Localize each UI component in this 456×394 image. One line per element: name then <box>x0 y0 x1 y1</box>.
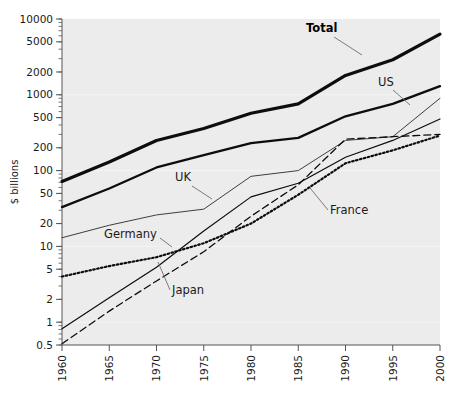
chart-figure: 0.512510205010020050010002000500010000 1… <box>0 0 456 394</box>
y-tick-label: 100 <box>33 164 53 176</box>
y-axis-tick-labels: 0.512510205010020050010002000500010000 <box>20 13 53 351</box>
y-axis-title: $ billions <box>9 160 20 205</box>
y-tick-label: 1000 <box>26 88 53 100</box>
y-tick-label: 50 <box>40 187 53 199</box>
y-tick-label: 10 <box>40 240 53 252</box>
y-tick-label: 10000 <box>20 13 53 25</box>
x-tick-label: 1990 <box>339 355 351 382</box>
x-axis-ticks <box>62 345 440 351</box>
series-label-uk: UK <box>175 170 191 184</box>
y-tick-label: 5000 <box>26 35 53 47</box>
y-tick-label: 500 <box>33 111 53 123</box>
series-label-france: France <box>330 203 368 217</box>
x-tick-label: 1985 <box>292 355 304 382</box>
x-axis-tick-labels: 196019651970197519801985199019952000 <box>56 355 446 382</box>
y-tick-label: 2 <box>46 293 53 305</box>
y-tick-label: 200 <box>33 141 53 153</box>
y-tick-label: 2000 <box>26 66 53 78</box>
y-tick-label: 20 <box>40 217 53 229</box>
series-label-us: US <box>378 75 394 89</box>
series-label-japan: Japan <box>171 283 204 297</box>
x-tick-label: 1995 <box>387 355 399 382</box>
series-label-total: Total <box>306 21 337 35</box>
x-tick-label: 1980 <box>245 355 257 382</box>
series-label-germany: Germany <box>104 227 157 241</box>
x-tick-label: 1970 <box>150 355 162 382</box>
x-tick-label: 1975 <box>198 355 210 382</box>
line-chart: 0.512510205010020050010002000500010000 1… <box>0 0 456 394</box>
y-tick-label: 1 <box>46 316 53 328</box>
x-tick-label: 1965 <box>103 355 115 382</box>
plot-background <box>62 19 440 345</box>
x-tick-label: 2000 <box>434 355 446 382</box>
x-tick-label: 1960 <box>56 355 68 382</box>
y-tick-label: 0.5 <box>36 339 53 351</box>
y-tick-label: 5 <box>46 263 53 275</box>
